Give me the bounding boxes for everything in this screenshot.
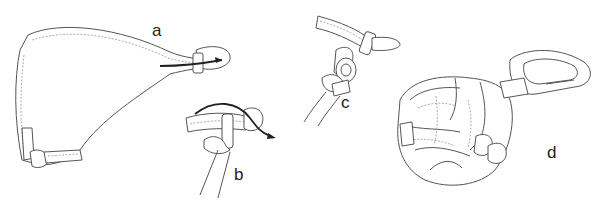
panel-a-sling [16,27,230,167]
panel-c-chain-start [304,16,400,126]
panel-label-c: c [341,94,350,111]
panel-label-d: d [547,144,556,161]
panel-label-a: a [152,22,161,39]
daisy-chain-diagram: a b c d [0,0,603,200]
panel-d-finished-chain [398,50,591,185]
panel-label-b: b [234,166,243,183]
diagram-artwork [0,0,603,200]
panel-b-knot [186,104,276,198]
